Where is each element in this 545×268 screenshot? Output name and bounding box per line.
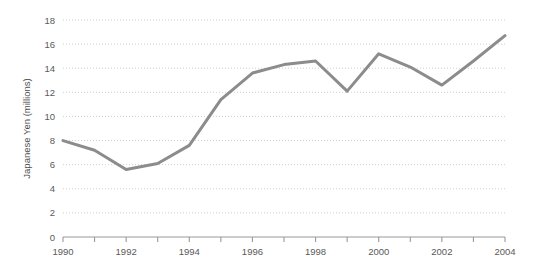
y-axis-tick-label: 6 — [50, 159, 55, 170]
y-axis-tick-label: 10 — [44, 111, 55, 122]
x-axis-tick-label: 1992 — [116, 246, 137, 257]
chart-canvas: 0246810121416181990199219941996199820002… — [0, 0, 545, 268]
x-axis-tick-label: 2002 — [431, 246, 452, 257]
y-tick-labels-group: 024681012141618 — [44, 15, 55, 243]
y-axis-tick-label: 2 — [50, 207, 55, 218]
y-axis-title: Japanese Yen (millions) — [21, 78, 32, 178]
line-chart: 0246810121416181990199219941996199820002… — [0, 0, 545, 268]
x-axis-tick-label: 1990 — [52, 246, 73, 257]
axis-group — [63, 237, 505, 242]
y-axis-tick-label: 4 — [50, 183, 55, 194]
y-axis-tick-label: 16 — [44, 39, 55, 50]
x-tick-labels-group: 19901992199419961998200020022004 — [52, 246, 515, 257]
x-axis-tick-label: 2004 — [494, 246, 515, 257]
y-axis-tick-label: 0 — [50, 232, 55, 243]
y-axis-tick-label: 12 — [44, 87, 55, 98]
x-axis-tick-label: 1996 — [242, 246, 263, 257]
y-axis-tick-label: 14 — [44, 63, 55, 74]
x-axis-tick-label: 2000 — [368, 246, 389, 257]
y-axis-tick-label: 18 — [44, 15, 55, 26]
x-axis-tick-label: 1994 — [179, 246, 200, 257]
y-axis-tick-label: 8 — [50, 135, 55, 146]
x-axis-tick-label: 1998 — [305, 246, 326, 257]
data-line-series — [63, 36, 505, 170]
gridlines-group — [63, 20, 505, 213]
